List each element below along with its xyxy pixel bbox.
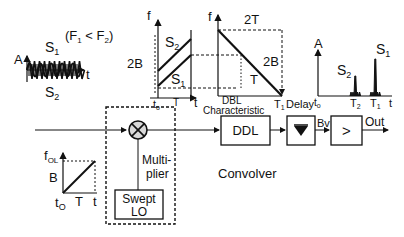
svg-text:T1: T1 <box>274 98 285 111</box>
lo-ramp-line <box>63 161 95 193</box>
svg-text:DDL: DDL <box>232 123 258 138</box>
label-s1: S1 <box>45 39 59 57</box>
svg-text:2B: 2B <box>263 54 279 69</box>
svg-text:2T: 2T <box>244 12 259 27</box>
s2-pulse <box>350 76 361 96</box>
svg-text:S2: S2 <box>337 62 351 80</box>
svg-text:B: B <box>49 170 58 185</box>
svg-text:f: f <box>147 8 151 23</box>
ddl-block: DDL <box>221 116 270 145</box>
svg-text:plier: plier <box>146 167 169 181</box>
svg-text:t: t <box>194 96 198 110</box>
svg-text:A: A <box>314 36 323 51</box>
svg-text:S1: S1 <box>376 41 390 59</box>
amplifier-block: > <box>331 116 362 145</box>
input-signal-plot: A t S1 S2 (F1 < F2) <box>14 28 113 102</box>
mixer-icon <box>129 121 147 139</box>
output-label: Out <box>365 115 385 129</box>
amplifier-icon: > <box>342 122 351 139</box>
svg-text:T1: T1 <box>370 97 381 110</box>
output-pulse-plot: A S2 S1 to T2 T1 t <box>314 36 392 110</box>
svg-text:tO: tO <box>55 195 66 212</box>
s1-pulse <box>370 59 381 96</box>
convolver-label: Convolver <box>218 166 277 181</box>
svg-text:S1: S1 <box>171 71 185 89</box>
svg-text:Delay: Delay <box>286 98 315 110</box>
ddl-characteristic-plot: f 2T 2B T DBL Characteristic T1 Delay <box>203 9 315 116</box>
svg-text:t: t <box>93 194 97 209</box>
swept-lo-block: Swept LO <box>115 190 163 219</box>
svg-text:Characteristic: Characteristic <box>203 105 264 116</box>
svg-text:t: t <box>389 97 392 109</box>
axis-label-a: A <box>14 52 23 67</box>
multiplier-label: Multi- <box>142 153 171 167</box>
svg-text:f: f <box>208 9 212 24</box>
svg-text:LO: LO <box>131 205 147 219</box>
label-s2: S2 <box>45 84 59 102</box>
svg-text:T: T <box>75 194 83 209</box>
svg-text:to: to <box>153 98 160 111</box>
lo-sweep-plot: fOL B tO T t <box>44 148 97 212</box>
svg-text:to: to <box>314 97 321 109</box>
bandwidth-2b-label: 2B <box>127 56 143 71</box>
svg-text:fOL: fOL <box>44 148 59 165</box>
svg-text:S2: S2 <box>165 34 179 52</box>
frequency-condition: (F1 < F2) <box>65 28 113 45</box>
detector-block <box>287 116 315 145</box>
bv-label: Bv <box>317 117 330 129</box>
convolver-diagram: A t S1 S2 (F1 < F2) f t 2B T to S2 S1 f … <box>0 0 404 237</box>
svg-text:Swept: Swept <box>122 192 156 206</box>
svg-text:T2: T2 <box>350 97 361 110</box>
svg-text:T: T <box>250 72 258 87</box>
axis-label-t: t <box>86 67 90 82</box>
